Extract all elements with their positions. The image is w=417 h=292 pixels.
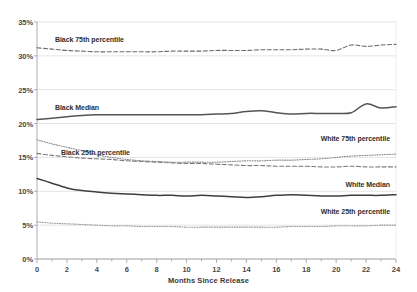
chart-plot-area [0,0,417,292]
series-label-black-75th-percentile: Black 75th percentile [55,36,124,43]
x-axis-tick-label: 12 [212,265,220,274]
y-axis-tick-label: 30% [18,51,33,60]
y-axis-tick-label: 20% [18,119,33,128]
x-axis-tick-label: 18 [302,265,310,274]
x-axis-tick-label: 0 [35,265,39,274]
series-line [37,178,396,197]
x-axis-tick-label: 22 [362,265,370,274]
series-line [37,44,396,51]
x-axis-tick-label: 2 [65,265,69,274]
x-axis-tick-label: 10 [182,265,190,274]
x-axis-tick-label: 4 [95,265,99,274]
x-axis-tick-label: 16 [272,265,280,274]
series-label-black-25th-percentile: Black 25th percentile [61,149,130,156]
x-axis-tick-label: 8 [155,265,159,274]
y-axis-tick-label: 5% [22,221,33,230]
series-label-white-median: White Median [346,181,391,188]
series-label-white-25th-percentile: White 25th percentile [321,208,390,215]
x-axis-tick-label: 6 [125,265,129,274]
series-line [37,222,396,227]
y-axis-tick-label: 15% [18,153,33,162]
series-label-black-median: Black Median [55,104,99,111]
x-axis-tick-label: 20 [332,265,340,274]
y-axis-tick-label: 0% [22,255,33,264]
series-label-white-75th-percentile: White 75th percentile [321,135,390,142]
y-axis-tick-label: 10% [18,187,33,196]
y-axis-tick-labels: 0%5%10%15%20%25%30%35% [0,0,33,292]
y-axis-tick-label: 25% [18,85,33,94]
chart-container: 0%5%10%15%20%25%30%35% 02468101214161820… [0,0,417,292]
y-axis-tick-label: 35% [18,18,33,27]
x-axis-tick-label: 24 [392,265,400,274]
x-axis-title: Months Since Release [0,276,417,285]
x-axis-tick-label: 14 [242,265,250,274]
